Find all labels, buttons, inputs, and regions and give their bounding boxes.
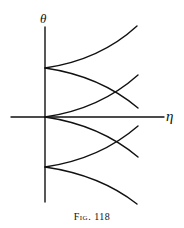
- eta-axis-label: η: [166, 108, 173, 125]
- diagram-canvas: [0, 0, 184, 228]
- upper-rising-curve: [45, 26, 137, 68]
- middle-rising-curve: [45, 75, 138, 117]
- theta-axis-label: θ: [40, 11, 46, 27]
- upper-falling-curve: [45, 68, 138, 108]
- figure-caption: Fig. 118: [0, 211, 184, 222]
- lower-falling-curve: [45, 167, 137, 204]
